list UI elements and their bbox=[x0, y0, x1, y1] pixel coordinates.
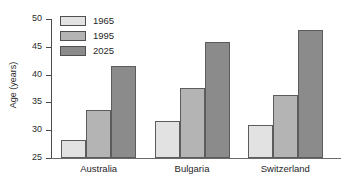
bar bbox=[298, 30, 323, 158]
y-axis-tick-mark bbox=[46, 130, 51, 131]
bar bbox=[61, 140, 86, 158]
bar bbox=[86, 110, 111, 158]
y-axis-tick-mark bbox=[46, 102, 51, 103]
legend-item: 2025 bbox=[60, 44, 114, 58]
x-axis-category-label: Switzerland bbox=[225, 163, 345, 174]
legend-label: 1965 bbox=[93, 16, 114, 26]
bar bbox=[111, 66, 136, 158]
y-axis-tick-label: 45 bbox=[18, 42, 42, 51]
legend-item: 1965 bbox=[60, 14, 114, 28]
x-axis-line bbox=[51, 158, 341, 159]
bar bbox=[180, 88, 205, 158]
legend-swatch bbox=[60, 46, 86, 56]
legend-swatch bbox=[60, 16, 86, 26]
bar bbox=[155, 121, 180, 158]
y-axis-tick-mark bbox=[46, 75, 51, 76]
chart-legend: 196519952025 bbox=[60, 14, 114, 59]
legend-label: 2025 bbox=[93, 46, 114, 56]
bar bbox=[273, 95, 298, 158]
bar bbox=[248, 125, 273, 158]
y-axis-tick-mark bbox=[46, 19, 51, 20]
legend-swatch bbox=[60, 31, 86, 41]
y-axis-tick-label: 40 bbox=[18, 70, 42, 79]
y-axis-tick-mark bbox=[46, 47, 51, 48]
bar-chart: Age (years) 253035404550 AustraliaBulgar… bbox=[0, 0, 350, 188]
legend-label: 1995 bbox=[93, 31, 114, 41]
y-axis-tick-label: 25 bbox=[18, 153, 42, 162]
y-axis-tick-label: 35 bbox=[18, 97, 42, 106]
y-axis-tick-label: 30 bbox=[18, 125, 42, 134]
bar bbox=[205, 42, 230, 158]
y-axis-tick-label: 50 bbox=[18, 14, 42, 23]
legend-item: 1995 bbox=[60, 29, 114, 43]
y-axis-label: Age (years) bbox=[8, 25, 18, 145]
y-axis-tick-mark bbox=[46, 158, 51, 159]
